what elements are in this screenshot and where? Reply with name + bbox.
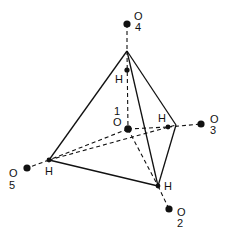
atom-o3 bbox=[197, 120, 204, 127]
label-h-top: H bbox=[115, 73, 123, 85]
atom-h-right bbox=[166, 125, 171, 130]
edge-right-bottom bbox=[158, 125, 176, 186]
label-o2-index: 2 bbox=[177, 217, 183, 229]
atom-h-top bbox=[124, 67, 129, 72]
atom-o4 bbox=[123, 20, 130, 27]
edge-left-bottom bbox=[49, 160, 158, 186]
label-o3-index: 3 bbox=[210, 124, 216, 136]
bond-o1-hright bbox=[128, 127, 168, 129]
atom-h-left bbox=[47, 158, 52, 163]
edge-left-right-hidden bbox=[49, 125, 176, 160]
bond-o1-hbottom bbox=[128, 129, 158, 186]
tetrahedron-diagram: O 4 H 1 O H O 3 H O 5 H O 2 bbox=[0, 0, 231, 242]
label-o5-letter: O bbox=[9, 167, 18, 179]
bond-apex-o1 bbox=[127, 51, 128, 129]
labels: O 4 H 1 O H O 3 H O 5 H O 2 bbox=[9, 10, 219, 229]
atom-o5 bbox=[23, 164, 30, 171]
label-h-bottom: H bbox=[164, 180, 172, 192]
label-o1-letter: O bbox=[113, 116, 122, 128]
label-o4-index: 4 bbox=[135, 21, 141, 33]
label-h-right: H bbox=[158, 112, 166, 124]
edge-apex-right bbox=[127, 51, 176, 125]
label-h-left: H bbox=[45, 165, 53, 177]
label-o5-index: 5 bbox=[9, 179, 15, 191]
atom-o1 bbox=[124, 125, 132, 133]
atom-o2 bbox=[165, 205, 172, 212]
atom-h-bottom bbox=[156, 184, 161, 189]
edge-apex-bottom bbox=[127, 51, 158, 186]
